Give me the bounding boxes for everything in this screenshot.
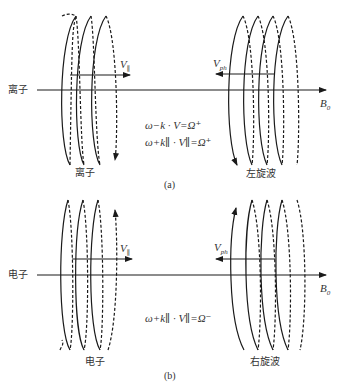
diagram-canvas <box>0 0 341 392</box>
v-parallel-label-b: V∥ <box>120 243 130 257</box>
equation-2-a: ω+k∥ · V∥=Ω⁺ <box>145 137 211 148</box>
electron-label-left: 电子 <box>8 270 28 280</box>
b0-label-b: B0 <box>320 283 330 297</box>
b0-label-a: B0 <box>320 98 330 112</box>
caption-a: (a) <box>164 180 175 190</box>
equation-1-a: ω−k · V=Ω⁺ <box>145 120 201 131</box>
left-wave-label: 左旋波 <box>246 169 276 179</box>
v-phase-label-a: Vph <box>213 58 227 72</box>
v-phase-label-b: Vph <box>214 242 228 256</box>
ion-label-bottom: 离子 <box>75 168 95 178</box>
equation-1-b: ω+k∥ · V∥=Ω⁻ <box>145 313 211 324</box>
ion-label-left: 离子 <box>8 85 28 95</box>
electron-label-bottom: 电子 <box>85 357 105 367</box>
caption-b: (b) <box>164 371 176 381</box>
v-parallel-label-a: V∥ <box>120 59 130 73</box>
right-wave-label: 右旋波 <box>250 357 280 367</box>
